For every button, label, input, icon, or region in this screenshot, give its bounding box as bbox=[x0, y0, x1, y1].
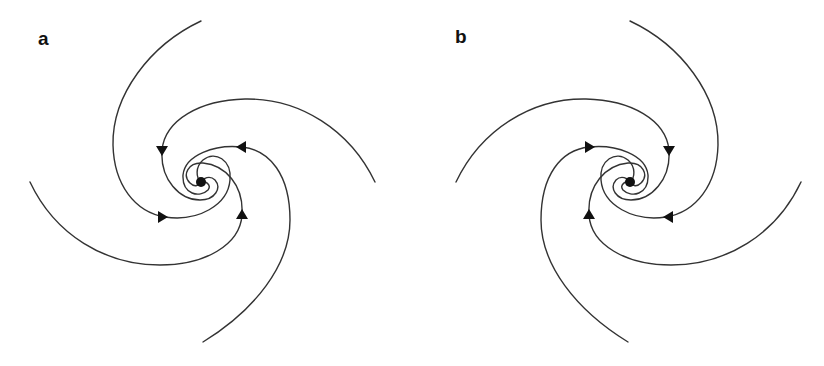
phase-portrait-svg bbox=[0, 0, 824, 366]
panel-a bbox=[30, 21, 375, 342]
panel-a-sink-point bbox=[196, 177, 206, 187]
panel-b-arm-top bbox=[601, 21, 718, 218]
panel-b-arm-bottom bbox=[541, 147, 648, 342]
panel-b-arrow-right-icon bbox=[585, 141, 595, 153]
panel-a-arrow-left-icon bbox=[236, 141, 246, 153]
panel-a-arrow-down-icon bbox=[156, 146, 168, 156]
panel-a-arrow-right-icon bbox=[158, 211, 168, 223]
panel-b-arm-right bbox=[589, 163, 801, 265]
panel-b bbox=[456, 21, 801, 342]
spiral-phase-portrait-figure: a b bbox=[0, 0, 824, 366]
panel-b-arrow-down-icon bbox=[663, 146, 675, 156]
panel-a-arm-left bbox=[30, 163, 242, 265]
panel-b-sink-point bbox=[625, 177, 635, 187]
panel-b-arrow-left-icon bbox=[663, 211, 673, 223]
panel-a-arm-bottom bbox=[183, 147, 290, 342]
panel-b-arrow-up-icon bbox=[583, 209, 595, 219]
panel-a-arm-top bbox=[113, 21, 230, 218]
panel-a-arrow-up-icon bbox=[236, 209, 248, 219]
